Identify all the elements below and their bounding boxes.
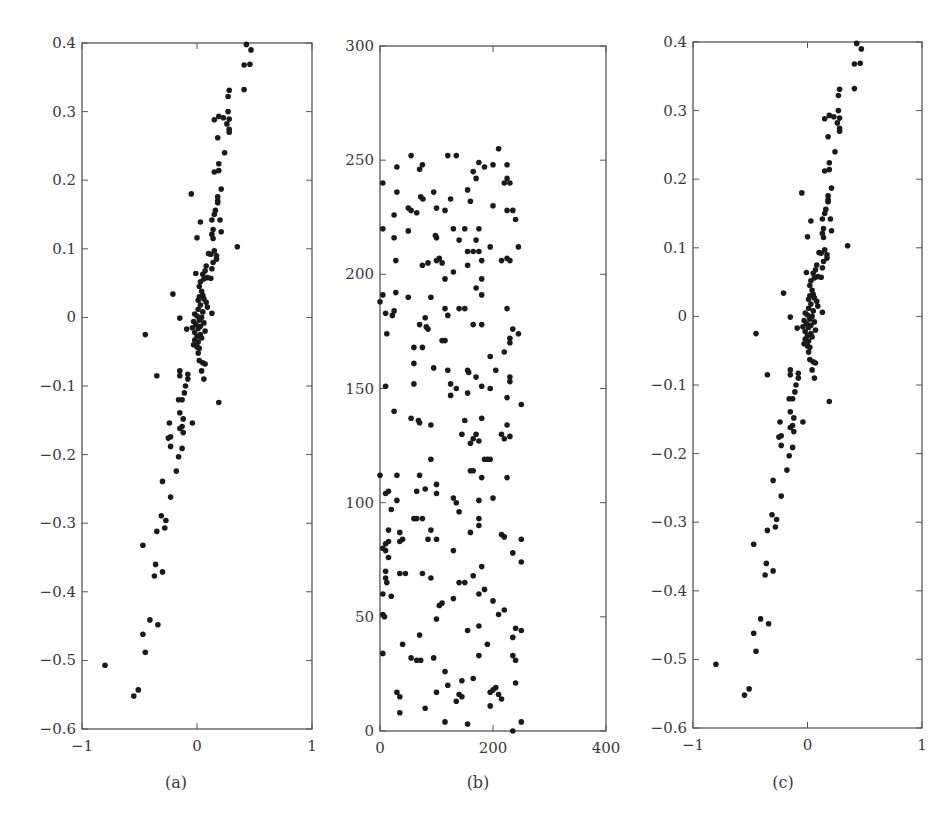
- data-point: [226, 88, 232, 94]
- data-point: [414, 516, 420, 522]
- data-point: [209, 266, 215, 272]
- data-point: [502, 607, 508, 613]
- data-point: [168, 434, 174, 440]
- data-point: [807, 283, 813, 289]
- data-point: [479, 322, 485, 328]
- data-point: [406, 228, 412, 234]
- data-point: [479, 564, 485, 570]
- data-point: [485, 641, 491, 647]
- data-point: [470, 573, 476, 579]
- data-point: [225, 109, 231, 115]
- data-point: [152, 573, 158, 579]
- data-point: [195, 298, 201, 304]
- data-point: [102, 662, 108, 668]
- data-point: [159, 513, 165, 519]
- data-point: [808, 278, 814, 284]
- data-point: [813, 327, 819, 333]
- y-tick-label: −0.4: [40, 583, 76, 601]
- y-tick-label: −0.1: [651, 376, 687, 394]
- data-point: [829, 228, 835, 234]
- data-point: [224, 121, 230, 127]
- data-point: [468, 199, 474, 205]
- data-point: [197, 346, 203, 352]
- y-tick-label: 200: [345, 265, 374, 283]
- data-point: [465, 628, 471, 634]
- data-point: [431, 365, 437, 371]
- data-point: [428, 422, 434, 428]
- data-point: [746, 686, 752, 692]
- data-point: [476, 591, 482, 597]
- data-point: [248, 47, 254, 53]
- data-point: [825, 199, 831, 205]
- x-tick-label: 1: [917, 736, 927, 754]
- data-point: [200, 271, 206, 277]
- data-point: [218, 186, 224, 192]
- data-point: [820, 310, 826, 316]
- data-point: [788, 314, 794, 320]
- data-point: [808, 218, 814, 224]
- x-tick-label: 1: [307, 737, 317, 755]
- data-point: [476, 623, 482, 629]
- data-point: [482, 164, 488, 170]
- data-point: [462, 580, 468, 586]
- data-point: [479, 415, 485, 421]
- data-point: [465, 187, 471, 193]
- data-point: [160, 479, 166, 485]
- data-point: [424, 324, 430, 330]
- data-point: [190, 325, 196, 331]
- data-point: [394, 689, 400, 695]
- data-point: [805, 234, 811, 240]
- data-point: [208, 276, 214, 282]
- data-point: [442, 306, 448, 312]
- data-point: [456, 237, 462, 243]
- data-point: [473, 374, 479, 380]
- data-point: [414, 210, 420, 216]
- data-point: [442, 276, 448, 282]
- data-point: [476, 653, 482, 659]
- data-point: [136, 687, 142, 693]
- data-point: [393, 290, 399, 296]
- data-point: [394, 498, 400, 504]
- y-tick-label: 100: [345, 494, 374, 512]
- data-point: [828, 216, 834, 222]
- data-point: [147, 617, 153, 623]
- data-point: [180, 416, 186, 422]
- data-point: [241, 62, 247, 68]
- data-point: [425, 536, 431, 542]
- data-point: [510, 208, 516, 214]
- data-point: [198, 279, 204, 285]
- data-point: [473, 237, 479, 243]
- data-point: [476, 160, 482, 166]
- data-point: [490, 598, 496, 604]
- data-point: [428, 527, 434, 533]
- data-point: [222, 150, 228, 156]
- data-point: [408, 153, 414, 159]
- y-tick-label: 0: [677, 307, 687, 325]
- data-point: [792, 389, 798, 395]
- data-point: [493, 367, 499, 373]
- data-point: [462, 306, 468, 312]
- data-point: [448, 196, 454, 202]
- data-point: [442, 208, 448, 214]
- y-tick-label: 0.1: [52, 240, 76, 258]
- data-point: [465, 262, 471, 268]
- data-point: [189, 191, 195, 197]
- data-point: [519, 402, 525, 408]
- data-point: [226, 129, 232, 135]
- data-point: [490, 495, 496, 501]
- data-point: [835, 120, 841, 126]
- data-point: [454, 699, 460, 705]
- x-tick-label: 400: [592, 739, 621, 757]
- data-point: [383, 383, 389, 389]
- data-point: [788, 372, 794, 378]
- data-point: [513, 626, 519, 632]
- data-point: [431, 655, 437, 661]
- data-point: [451, 548, 457, 554]
- data-point: [380, 180, 386, 186]
- data-point: [177, 373, 183, 379]
- data-point: [462, 226, 468, 232]
- data-point: [762, 572, 768, 578]
- data-point: [468, 530, 474, 536]
- data-point: [504, 162, 510, 168]
- data-point: [417, 473, 423, 479]
